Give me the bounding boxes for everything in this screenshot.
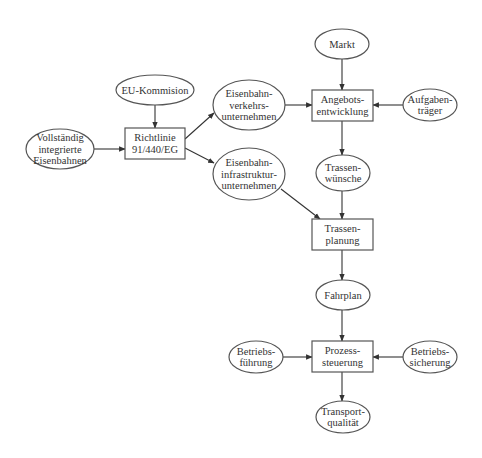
node-fahrplan: Fahrplan bbox=[316, 280, 370, 310]
arrow-richtlinie-to-eiu bbox=[185, 148, 214, 163]
node-label: Eisenbahnen bbox=[33, 155, 87, 166]
node-eiu: Eisenbahn-infrastruktur-unternehmen bbox=[213, 148, 285, 200]
node-label: Trassen- bbox=[325, 162, 361, 173]
node-markt: Markt bbox=[315, 29, 369, 59]
node-label: Aufgaben- bbox=[408, 94, 453, 105]
node-label: sicherung bbox=[410, 357, 452, 368]
node-label: integrierte bbox=[38, 144, 81, 155]
nodes-layer: MarktAngebots-entwicklungAufgaben-träger… bbox=[26, 29, 457, 433]
node-richtlinie: Richtlinie91/440/EG bbox=[125, 128, 185, 159]
node-bsicherung: Betriebs-sicherung bbox=[403, 341, 457, 373]
node-label: Richtlinie bbox=[134, 132, 176, 143]
node-label: unternehmen bbox=[222, 180, 278, 191]
node-label: Betriebs- bbox=[237, 346, 276, 357]
node-label: EU-Kommision bbox=[121, 85, 189, 96]
node-bfuehrung: Betriebs-führung bbox=[229, 341, 283, 373]
node-label: Markt bbox=[329, 39, 355, 50]
node-label: steuerung bbox=[322, 357, 364, 368]
node-label: unternehmen bbox=[222, 111, 278, 122]
node-prozess: Prozess-steuerung bbox=[312, 341, 373, 372]
node-label: Prozess- bbox=[325, 345, 361, 356]
node-label: Vollständig bbox=[36, 132, 84, 143]
node-label: verkehrs- bbox=[229, 100, 269, 111]
node-planung: Trassen-planung bbox=[312, 219, 373, 250]
node-label: 91/440/EG bbox=[132, 144, 178, 155]
node-vollst: VollständigintegrierteEisenbahnen bbox=[26, 129, 94, 169]
node-wuensche: Trassen-wünsche bbox=[316, 155, 370, 191]
node-aufgaben: Aufgaben-träger bbox=[403, 89, 457, 121]
node-label: Angebots- bbox=[321, 94, 365, 105]
node-label: Transport- bbox=[321, 406, 365, 417]
node-evu: Eisenbahn-verkehrs-unternehmen bbox=[213, 80, 285, 130]
node-label: wünsche bbox=[325, 173, 362, 184]
node-label: qualität bbox=[327, 417, 359, 428]
arrow-richtlinie-to-evu bbox=[185, 113, 214, 139]
node-label: entwicklung bbox=[317, 106, 370, 117]
node-label: führung bbox=[239, 357, 273, 368]
node-label: planung bbox=[326, 235, 361, 246]
arrow-eiu-to-planung bbox=[281, 189, 320, 219]
node-label: Trassen- bbox=[325, 223, 361, 234]
node-label: träger bbox=[418, 105, 443, 116]
node-eu: EU-Kommision bbox=[116, 75, 194, 105]
node-label: Fahrplan bbox=[324, 290, 362, 301]
node-angebot: Angebots-entwicklung bbox=[312, 90, 373, 121]
node-label: Betriebs- bbox=[411, 346, 450, 357]
flowchart-diagram: MarktAngebots-entwicklungAufgaben-träger… bbox=[0, 0, 482, 458]
node-transport: Transport-qualität bbox=[316, 401, 370, 433]
node-label: Eisenbahn- bbox=[225, 88, 273, 99]
node-label: infrastruktur- bbox=[221, 169, 277, 180]
node-label: Eisenbahn- bbox=[225, 157, 273, 168]
